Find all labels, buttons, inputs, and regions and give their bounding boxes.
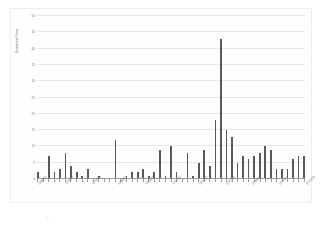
bar (248, 159, 250, 179)
chart-figure: Numbers of firms 05101520253035404550 19… (10, 8, 312, 203)
x-axis-tick (237, 179, 238, 182)
y-axis-tick-label: 45 (31, 30, 35, 34)
y-axis-tick-label: 30 (31, 79, 35, 83)
bar (298, 156, 300, 179)
x-axis-tick (59, 179, 60, 182)
x-axis-tick (87, 179, 88, 182)
y-axis-tick-label: 20 (31, 112, 35, 116)
x-axis-tick (265, 179, 266, 182)
y-axis-tick-label: 35 (31, 63, 35, 67)
y-axis-tick-label: 0 (33, 177, 35, 181)
bar-series (37, 16, 305, 179)
x-axis-tick (104, 179, 105, 182)
x-axis-tick (243, 179, 244, 182)
bar (237, 163, 239, 179)
y-axis-tick-label: 5 (33, 161, 35, 165)
x-axis-tick (76, 179, 77, 182)
x-axis-tick (293, 179, 294, 182)
x-axis-tick (182, 179, 183, 182)
x-axis-tick (287, 179, 288, 182)
bar (115, 140, 117, 179)
bar (48, 156, 50, 179)
bar (65, 153, 67, 179)
x-axis-tick (221, 179, 222, 182)
bar (220, 39, 222, 179)
y-axis-tick-label: 15 (31, 128, 35, 132)
x-axis-tick (193, 179, 194, 182)
y-axis-tick-label: 10 (31, 144, 35, 148)
x-axis-tick (115, 179, 116, 182)
y-axis-tick-label: 25 (31, 96, 35, 100)
x-axis-tick (54, 179, 55, 182)
y-axis-tick-label: 50 (31, 14, 35, 18)
x-axis-tick (48, 179, 49, 182)
bar (187, 153, 189, 179)
bar (226, 130, 228, 179)
bar (253, 156, 255, 179)
plot-area: 05101520253035404550 (37, 16, 305, 179)
bar (198, 163, 200, 179)
x-axis-tick (159, 179, 160, 182)
bar (231, 137, 233, 179)
x-axis-tick (165, 179, 166, 182)
x-axis-tick (82, 179, 83, 182)
bar (215, 120, 217, 179)
x-axis-tick (271, 179, 272, 182)
x-axis-tick (298, 179, 299, 182)
bar (242, 156, 244, 179)
x-axis-tick (209, 179, 210, 182)
x-axis-tick (215, 179, 216, 182)
bar (303, 156, 305, 179)
x-axis-tick (132, 179, 133, 182)
x-axis-tick (276, 179, 277, 182)
x-axis-tick (187, 179, 188, 182)
y-axis-tick-label: 40 (31, 47, 35, 51)
bar (159, 150, 161, 179)
bar (292, 159, 294, 179)
x-axis-tick (154, 179, 155, 182)
x-axis-tick (109, 179, 110, 182)
caption-mark: • (47, 214, 49, 220)
bar (264, 146, 266, 179)
x-axis-tick-label: 2014/15 (305, 175, 316, 186)
bar (170, 146, 172, 179)
x-axis-tick (137, 179, 138, 182)
bar (270, 150, 272, 179)
x-axis-labels: 1966/671970/711974/751980/811988/891991/… (37, 183, 305, 205)
x-axis-tick (248, 179, 249, 182)
y-axis-title: Numbers of firms (15, 11, 19, 71)
